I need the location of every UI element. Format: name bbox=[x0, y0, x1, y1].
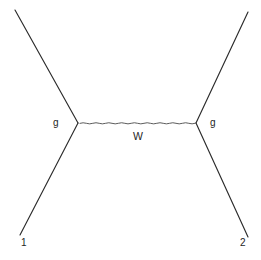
lower-left-leg bbox=[20, 123, 78, 235]
vertex-label-right: g bbox=[210, 118, 216, 128]
feynman-diagram-canvas: g g W 1 2 bbox=[0, 0, 261, 260]
feynman-diagram-svg bbox=[0, 0, 261, 260]
w-boson-propagator bbox=[80, 123, 195, 124]
vertex-label-left: g bbox=[53, 118, 59, 128]
leg-label-2: 2 bbox=[240, 238, 246, 248]
lower-right-leg bbox=[196, 123, 248, 237]
leg-label-1: 1 bbox=[21, 238, 27, 248]
upper-right-leg bbox=[196, 12, 248, 123]
upper-left-leg bbox=[15, 10, 78, 123]
propagator-label-w: W bbox=[133, 131, 143, 142]
